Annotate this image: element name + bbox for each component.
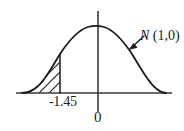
distribution-label: N (1,0) (140, 29, 180, 43)
normal-curve-figure: -1.45 0 N (1,0) (0, 0, 184, 131)
threshold-value-label: -1.45 (49, 95, 77, 109)
distribution-name-text: N (140, 28, 149, 43)
distribution-plot (0, 0, 184, 131)
distribution-params-text: (1,0) (149, 28, 179, 43)
origin-label: 0 (94, 110, 102, 125)
